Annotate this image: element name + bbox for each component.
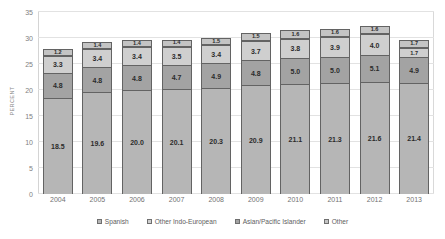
bar-segment-value: 1.6 bbox=[291, 32, 299, 38]
stacked-bar-chart: PERCENT 05101520253035 1.23.34.818.51.43… bbox=[0, 0, 445, 239]
bar-segment-value: 5.0 bbox=[330, 67, 340, 74]
x-axis-tick-label: 2013 bbox=[399, 196, 429, 203]
bar-column[interactable]: 1.43.44.820.0 bbox=[122, 12, 152, 194]
bar-segment-value: 3.4 bbox=[93, 55, 103, 62]
bar-segment[interactable]: 3.4 bbox=[82, 49, 112, 67]
bar-segment-value: 4.8 bbox=[93, 77, 103, 84]
bar-segment-value: 3.4 bbox=[211, 51, 221, 58]
bar-segment[interactable]: 21.6 bbox=[360, 82, 390, 194]
bar-segment-value: 1.4 bbox=[94, 43, 102, 49]
bar-segment-value: 21.3 bbox=[328, 136, 342, 143]
bar-segment[interactable]: 1.6 bbox=[320, 29, 350, 37]
bar-segment[interactable]: 21.3 bbox=[320, 83, 350, 194]
x-axis-tick-label: 2009 bbox=[241, 196, 271, 203]
bar-segment[interactable]: 3.4 bbox=[122, 47, 152, 65]
bar-segment[interactable]: 20.3 bbox=[201, 88, 231, 194]
bar-column[interactable]: 1.63.95.021.3 bbox=[320, 12, 350, 194]
bar-segment[interactable]: 1.4 bbox=[122, 40, 152, 47]
plot-area: 05101520253035 1.23.34.818.51.43.44.819.… bbox=[38, 12, 434, 194]
bar-segment[interactable]: 3.5 bbox=[162, 47, 192, 65]
bar-column[interactable]: 1.64.05.121.6 bbox=[360, 12, 390, 194]
bar-segment[interactable]: 4.7 bbox=[162, 65, 192, 89]
bar-segment[interactable]: 4.8 bbox=[122, 65, 152, 90]
legend-label: Asian/Pacific Islander bbox=[243, 218, 306, 225]
legend-item[interactable]: Other Indo-European bbox=[147, 218, 217, 225]
legend-item[interactable]: Spanish bbox=[97, 218, 129, 225]
bar-segment[interactable]: 1.6 bbox=[280, 30, 310, 38]
bar-segment[interactable]: 1.5 bbox=[201, 38, 231, 46]
bar-segment[interactable]: 3.3 bbox=[43, 56, 73, 73]
y-axis-tick-label: 20 bbox=[25, 87, 33, 94]
bar-segment-value: 1.6 bbox=[371, 27, 379, 33]
bar-segment[interactable]: 4.9 bbox=[201, 63, 231, 88]
bar-segment[interactable]: 3.8 bbox=[280, 39, 310, 59]
bar-segment[interactable]: 5.0 bbox=[320, 57, 350, 83]
y-axis-tick-label: 5 bbox=[29, 165, 33, 172]
bar-segment-value: 3.3 bbox=[53, 61, 63, 68]
bar-segment-value: 1.6 bbox=[331, 30, 339, 36]
legend-swatch-icon bbox=[235, 219, 240, 224]
bar-segment[interactable]: 4.9 bbox=[399, 57, 429, 82]
bar-segment-value: 5.0 bbox=[290, 68, 300, 75]
bar-segment-value: 4.8 bbox=[53, 82, 63, 89]
bar-segment-value: 20.1 bbox=[170, 139, 184, 146]
x-axis-tick-label: 2011 bbox=[320, 196, 350, 203]
bar-segment[interactable]: 4.0 bbox=[360, 34, 390, 55]
bar-segment[interactable]: 4.8 bbox=[43, 73, 73, 98]
legend-swatch-icon bbox=[97, 219, 102, 224]
bar-segment-value: 3.7 bbox=[251, 48, 261, 55]
legend-swatch-icon bbox=[324, 219, 329, 224]
y-axis-tick-label: 15 bbox=[25, 113, 33, 120]
bar-segment-value: 18.5 bbox=[51, 143, 65, 150]
y-axis-tick-label: 35 bbox=[25, 9, 33, 16]
bar-column[interactable]: 1.43.44.819.6 bbox=[82, 12, 112, 194]
bar-segment[interactable]: 1.5 bbox=[241, 33, 271, 41]
bar-segment[interactable]: 20.0 bbox=[122, 90, 152, 194]
y-axis-title: PERCENT bbox=[9, 71, 15, 131]
bar-segment[interactable]: 20.9 bbox=[241, 85, 271, 194]
bar-segment[interactable]: 1.6 bbox=[360, 26, 390, 34]
bar-column[interactable]: 1.53.74.820.9 bbox=[241, 12, 271, 194]
bar-segment[interactable]: 5.0 bbox=[280, 58, 310, 84]
bar-segment[interactable]: 3.9 bbox=[320, 37, 350, 57]
x-axis-ticks: 2004200520062007200820092010201120122013 bbox=[38, 196, 434, 212]
bar-segment[interactable]: 4.8 bbox=[82, 67, 112, 92]
bar-column[interactable]: 1.63.85.021.1 bbox=[280, 12, 310, 194]
bar-segment-value: 4.8 bbox=[251, 70, 261, 77]
bar-segment-value: 4.0 bbox=[370, 42, 380, 49]
bar-segment[interactable]: 4.8 bbox=[241, 60, 271, 85]
bar-segment[interactable]: 19.6 bbox=[82, 92, 112, 194]
bar-segment-value: 3.8 bbox=[290, 45, 300, 52]
bar-column[interactable]: 1.71.74.921.4 bbox=[399, 12, 429, 194]
bar-segment[interactable]: 1.7 bbox=[399, 48, 429, 57]
legend-item[interactable]: Asian/Pacific Islander bbox=[235, 218, 306, 225]
bar-segment-value: 1.4 bbox=[133, 41, 141, 47]
bar-segment-value: 4.9 bbox=[409, 67, 419, 74]
bar-segment-value: 3.4 bbox=[132, 53, 142, 60]
y-axis-tick-label: 25 bbox=[25, 61, 33, 68]
bar-column[interactable]: 1.23.34.818.5 bbox=[43, 12, 73, 194]
bar-segment[interactable]: 5.1 bbox=[360, 55, 390, 82]
bar-segment-value: 21.1 bbox=[289, 136, 303, 143]
bar-segment[interactable]: 21.1 bbox=[280, 84, 310, 194]
bar-segment[interactable]: 20.1 bbox=[162, 89, 192, 194]
bar-segment-value: 3.5 bbox=[172, 53, 182, 60]
bar-group: 1.23.34.818.51.43.44.819.61.43.44.820.01… bbox=[38, 12, 434, 194]
bar-segment-value: 1.5 bbox=[212, 39, 220, 45]
bar-segment[interactable]: 1.7 bbox=[399, 40, 429, 49]
bar-segment[interactable]: 1.4 bbox=[82, 42, 112, 49]
bar-column[interactable]: 1.53.44.920.3 bbox=[201, 12, 231, 194]
y-axis-tick-label: 0 bbox=[29, 191, 33, 198]
bar-segment-value: 3.9 bbox=[330, 44, 340, 51]
x-axis-tick-label: 2004 bbox=[43, 196, 73, 203]
x-axis-tick-label: 2006 bbox=[122, 196, 152, 203]
bar-segment[interactable]: 21.4 bbox=[399, 83, 429, 194]
bar-segment[interactable]: 18.5 bbox=[43, 98, 73, 194]
bar-segment[interactable]: 3.7 bbox=[241, 41, 271, 60]
bar-segment[interactable]: 1.4 bbox=[162, 40, 192, 47]
bar-segment-value: 4.7 bbox=[172, 74, 182, 81]
bar-segment[interactable]: 3.4 bbox=[201, 45, 231, 63]
bar-column[interactable]: 1.43.54.720.1 bbox=[162, 12, 192, 194]
x-axis-tick-label: 2010 bbox=[280, 196, 310, 203]
legend-item[interactable]: Other bbox=[324, 218, 349, 225]
